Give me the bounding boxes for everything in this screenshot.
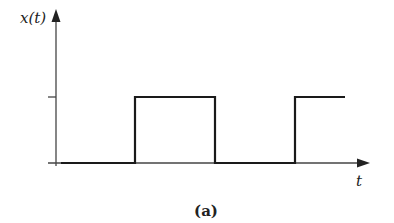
x-axis-label: t xyxy=(356,172,363,190)
figure-caption: (a) xyxy=(194,202,218,220)
y-axis-label: x(t) xyxy=(20,9,46,27)
square-wave-signal xyxy=(61,97,345,163)
x-axis-arrow-icon xyxy=(357,159,370,168)
y-axis-arrow-icon xyxy=(52,9,61,22)
square-wave-diagram: x(t) t (a) xyxy=(0,0,394,223)
